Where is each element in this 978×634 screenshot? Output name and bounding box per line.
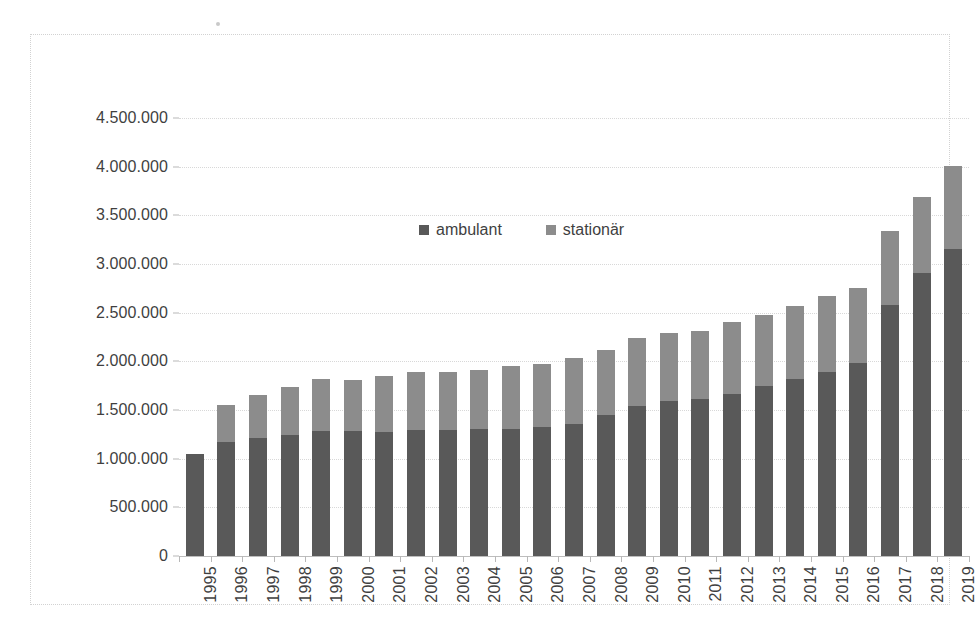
bar-segment-ambulant[interactable]: [312, 431, 330, 556]
x-tick-mark: [558, 556, 559, 562]
bar-segment-ambulant[interactable]: [281, 435, 299, 556]
bar-segment-ambulant[interactable]: [818, 372, 836, 556]
bar-segment-ambulant[interactable]: [439, 430, 457, 556]
x-tick-mark: [495, 556, 496, 562]
bar-segment-ambulant[interactable]: [597, 415, 615, 556]
bar-stack[interactable]: [597, 350, 615, 556]
bar-stack[interactable]: [881, 231, 899, 556]
bar-stack[interactable]: [502, 366, 520, 556]
bar-segment-ambulant[interactable]: [565, 424, 583, 556]
bar-segment-ambulant[interactable]: [786, 379, 804, 556]
bar-segment-stationaer[interactable]: [881, 231, 899, 305]
bar-segment-stationaer[interactable]: [755, 315, 773, 386]
bar-segment-ambulant[interactable]: [186, 454, 204, 556]
x-tick-label: 2009: [644, 566, 662, 603]
y-tick-label: 4.000.000: [96, 158, 168, 176]
bar-stack[interactable]: [249, 395, 267, 556]
bar-segment-stationaer[interactable]: [628, 338, 646, 406]
bar-segment-stationaer[interactable]: [502, 366, 520, 428]
bar-segment-ambulant[interactable]: [691, 399, 709, 556]
bar-segment-stationaer[interactable]: [818, 296, 836, 371]
y-tick-label: 1.000.000: [96, 450, 168, 468]
x-tick-label: 2010: [676, 566, 694, 603]
bar-segment-stationaer[interactable]: [723, 322, 741, 394]
bar-segment-stationaer[interactable]: [849, 288, 867, 362]
bar-stack[interactable]: [470, 370, 488, 556]
bar-segment-stationaer[interactable]: [944, 166, 962, 249]
chart-legend: ambulant stationär: [419, 221, 624, 239]
x-tick-mark: [811, 556, 812, 562]
legend-item-stationaer[interactable]: stationär: [546, 221, 624, 239]
bar-stack[interactable]: [186, 454, 204, 556]
bar-stack[interactable]: [755, 315, 773, 556]
bar-stack[interactable]: [407, 372, 425, 556]
legend-swatch-icon-ambulant: [419, 225, 429, 235]
x-tick-mark: [716, 556, 717, 562]
bar-segment-stationaer[interactable]: [439, 372, 457, 430]
bar-stack[interactable]: [818, 296, 836, 556]
legend-item-ambulant[interactable]: ambulant: [419, 221, 502, 239]
bar-segment-ambulant[interactable]: [217, 442, 235, 556]
bar-stack[interactable]: [723, 322, 741, 556]
bar-segment-stationaer[interactable]: [407, 372, 425, 430]
bar-segment-stationaer[interactable]: [217, 405, 235, 442]
y-tick-label: 4.500.000: [96, 109, 168, 127]
x-tick-label: 2014: [802, 566, 820, 603]
bar-stack[interactable]: [913, 197, 931, 556]
x-tick-mark: [211, 556, 212, 562]
bar-segment-ambulant[interactable]: [249, 438, 267, 556]
x-tick-label: 2015: [834, 566, 852, 603]
bar-segment-ambulant[interactable]: [913, 273, 931, 556]
bar-stack[interactable]: [344, 380, 362, 556]
bar-segment-stationaer[interactable]: [786, 306, 804, 379]
bar-segment-stationaer[interactable]: [281, 387, 299, 435]
bar-segment-stationaer[interactable]: [691, 331, 709, 399]
bar-segment-ambulant[interactable]: [407, 430, 425, 556]
y-tick-label: 500.000: [109, 498, 168, 516]
bar-stack[interactable]: [628, 338, 646, 556]
bar-segment-stationaer[interactable]: [249, 395, 267, 438]
bar-segment-ambulant[interactable]: [849, 363, 867, 556]
bar-segment-ambulant[interactable]: [375, 432, 393, 556]
bar-segment-ambulant[interactable]: [881, 305, 899, 556]
y-tick-label: 2.000.000: [96, 352, 168, 370]
bar-stack[interactable]: [849, 288, 867, 556]
bar-segment-ambulant[interactable]: [660, 401, 678, 556]
bar-segment-stationaer[interactable]: [597, 350, 615, 415]
bar-stack[interactable]: [312, 379, 330, 556]
bar-segment-stationaer[interactable]: [533, 364, 551, 427]
bar-stack[interactable]: [533, 364, 551, 556]
y-tick-label: 3.000.000: [96, 255, 168, 273]
bar-segment-ambulant[interactable]: [723, 394, 741, 556]
x-tick-label: 2016: [865, 566, 883, 603]
bar-segment-ambulant[interactable]: [502, 429, 520, 557]
bar-segment-stationaer[interactable]: [312, 379, 330, 431]
bar-stack[interactable]: [217, 405, 235, 556]
bar-stack[interactable]: [691, 331, 709, 556]
bar-stack[interactable]: [944, 166, 962, 556]
legend-label-stationaer: stationär: [563, 221, 624, 239]
bar-stack[interactable]: [565, 358, 583, 556]
bar-segment-ambulant[interactable]: [944, 249, 962, 556]
bar-stack[interactable]: [281, 387, 299, 556]
bar-stack[interactable]: [660, 333, 678, 556]
gridline: [179, 556, 969, 557]
bar-segment-stationaer[interactable]: [470, 370, 488, 430]
bar-segment-stationaer[interactable]: [913, 197, 931, 273]
x-tick-label: 2004: [486, 566, 504, 603]
bar-stack[interactable]: [786, 306, 804, 556]
x-tick-label: 1999: [328, 566, 346, 603]
bar-segment-ambulant[interactable]: [344, 431, 362, 556]
x-tick-mark: [179, 556, 180, 562]
bar-segment-ambulant[interactable]: [755, 386, 773, 556]
bar-segment-ambulant[interactable]: [628, 406, 646, 556]
bar-segment-stationaer[interactable]: [660, 333, 678, 401]
bar-segment-ambulant[interactable]: [533, 427, 551, 556]
bar-segment-ambulant[interactable]: [470, 429, 488, 556]
bar-stack[interactable]: [375, 376, 393, 556]
bar-segment-stationaer[interactable]: [565, 358, 583, 424]
chart-figure: 4.500.0004.000.0003.500.0003.000.0002.50…: [0, 0, 978, 634]
bar-stack[interactable]: [439, 372, 457, 556]
bar-segment-stationaer[interactable]: [344, 380, 362, 432]
bar-segment-stationaer[interactable]: [375, 376, 393, 431]
